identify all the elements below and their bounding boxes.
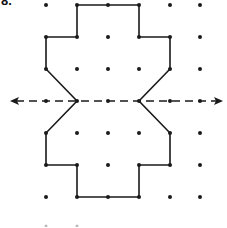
symmetry-axis (10, 97, 223, 105)
grid-dot (198, 3, 202, 7)
vertex-dot (106, 3, 110, 7)
grid-dot (44, 99, 48, 103)
grid-dot (137, 67, 141, 71)
grid-dot (106, 67, 110, 71)
grid-dot (106, 99, 110, 103)
grid-dot (198, 35, 202, 39)
vertex-dot (75, 195, 79, 199)
grid-dot (44, 195, 48, 199)
vertex-dot (168, 131, 172, 135)
grid-dot (168, 3, 172, 7)
vertex-dot (44, 67, 48, 71)
grid-dot (75, 131, 79, 135)
grid-dot (44, 3, 48, 7)
vertex-dot (137, 35, 141, 39)
dot-grid-diagram (0, 0, 227, 227)
grid-dot (198, 163, 202, 167)
grid-dot (75, 67, 79, 71)
grid-dot (106, 35, 110, 39)
vertex-dot (168, 67, 172, 71)
vertex-dot (75, 35, 79, 39)
vertex-dot (137, 163, 141, 167)
vertex-dot (44, 163, 48, 167)
vertex-dot (168, 35, 172, 39)
vertex-dot (137, 3, 141, 7)
vertex-dot (168, 163, 172, 167)
grid-dot (198, 195, 202, 199)
grid-dot (168, 99, 172, 103)
vertex-dot (44, 131, 48, 135)
grid-dot-faint (45, 225, 48, 228)
grid-dot (137, 131, 141, 135)
grid-dot-faint (76, 225, 79, 228)
vertex-dot (106, 195, 110, 199)
vertex-dot (44, 35, 48, 39)
vertex-dot (75, 163, 79, 167)
grid-dot (198, 131, 202, 135)
grid-dot (106, 163, 110, 167)
grid-dot (198, 67, 202, 71)
grid-dot (198, 99, 202, 103)
vertex-dot (75, 3, 79, 7)
vertex-dot (137, 195, 141, 199)
grid-dot (106, 131, 110, 135)
vertex-dot (75, 99, 79, 103)
vertex-dot (137, 99, 141, 103)
grid-dot (168, 195, 172, 199)
